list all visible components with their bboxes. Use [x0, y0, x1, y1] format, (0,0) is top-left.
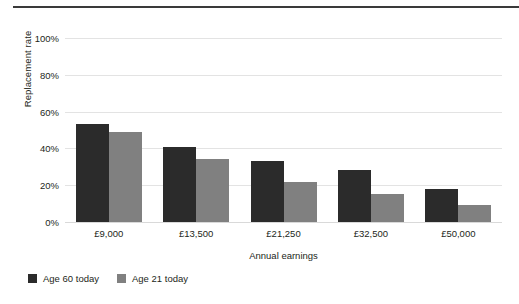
bar-age-60-today: [251, 161, 284, 222]
legend-label: Age 21 today: [132, 273, 188, 284]
bar-age-21-today: [284, 182, 317, 222]
y-tick-label: 100%: [1, 33, 59, 44]
bar-age-60-today: [163, 147, 196, 222]
y-tick-label: 20%: [1, 180, 59, 191]
y-tick-label: 80%: [1, 69, 59, 80]
x-axis-title: Annual earnings: [65, 250, 502, 261]
legend-label: Age 60 today: [43, 273, 99, 284]
gridline-0: [65, 222, 502, 223]
legend-swatch-icon: [28, 274, 37, 283]
bar-age-21-today: [371, 194, 404, 222]
bar-group: [425, 38, 491, 222]
chart-figure: Replacement rate 0%20%40%60%80%100% £9,0…: [0, 0, 519, 304]
bar-age-21-today: [196, 159, 229, 222]
chart-legend: Age 60 todayAge 21 today: [28, 273, 188, 284]
y-tick-label: 0%: [1, 217, 59, 228]
bar-group: [76, 38, 142, 222]
y-tick-label: 60%: [1, 106, 59, 117]
bar-age-60-today: [425, 189, 458, 222]
top-divider-rule: [13, 6, 519, 8]
x-tick-label: £50,000: [403, 228, 513, 239]
bar-age-60-today: [76, 124, 109, 222]
bar-group: [251, 38, 317, 222]
legend-entry[interactable]: Age 21 today: [117, 273, 188, 284]
bar-groups: [65, 38, 502, 222]
legend-entry[interactable]: Age 60 today: [28, 273, 99, 284]
legend-swatch-icon: [117, 274, 126, 283]
bar-age-21-today: [458, 205, 491, 222]
bar-group: [163, 38, 229, 222]
y-tick-label: 40%: [1, 143, 59, 154]
bar-age-21-today: [109, 132, 142, 222]
plot-area: 0%20%40%60%80%100% £9,000£13,500£21,250£…: [65, 38, 502, 222]
bar-group: [338, 38, 404, 222]
bar-age-60-today: [338, 170, 371, 222]
